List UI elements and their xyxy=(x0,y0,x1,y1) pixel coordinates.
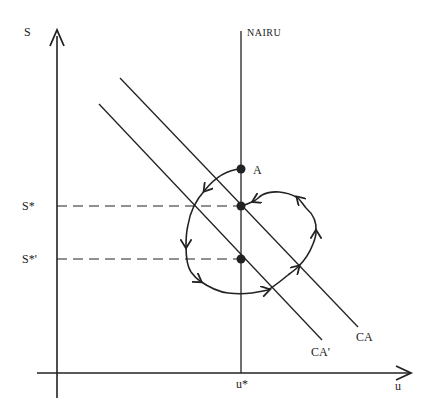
adjustment-loop xyxy=(186,169,316,294)
point-a xyxy=(237,165,246,174)
s-star-prime-label: S*' xyxy=(22,252,37,266)
point-a-label: A xyxy=(253,163,262,177)
s-star-label: S* xyxy=(22,199,35,213)
diagram-canvas: S u NAIRU CA CA' S* S*' u* xyxy=(0,0,434,414)
y-axis xyxy=(50,30,64,398)
y-axis-label: S xyxy=(24,25,31,39)
nairu-label: NAIRU xyxy=(247,27,281,38)
x-axis-label: u xyxy=(395,379,401,393)
ca-label: CA xyxy=(356,330,373,344)
u-star-label: u* xyxy=(236,377,248,391)
ca-prime-label: CA' xyxy=(311,345,330,359)
point-s-star xyxy=(237,202,246,211)
ca-prime-line xyxy=(99,104,322,340)
x-axis xyxy=(37,366,411,380)
point-s-star-prime xyxy=(237,255,246,264)
